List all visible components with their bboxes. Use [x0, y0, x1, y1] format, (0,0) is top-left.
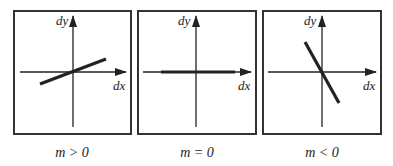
- slope-diagram: dy dx m > 0 dy dx m = 0 dy dx m < 0: [0, 0, 393, 166]
- x-axis-label: dx: [238, 78, 251, 93]
- y-axis-label: dy: [304, 13, 317, 28]
- y-axis-label: dy: [178, 13, 191, 28]
- y-axis-label: dy: [56, 13, 69, 28]
- x-axis-label: dx: [113, 78, 126, 93]
- x-axis-label: dx: [363, 78, 376, 93]
- caption: m > 0: [55, 145, 89, 160]
- caption: m = 0: [180, 145, 214, 160]
- panel-zero-slope: dy dx m = 0: [138, 11, 256, 160]
- panel-positive-slope: dy dx m > 0: [14, 11, 131, 160]
- caption: m < 0: [305, 145, 339, 160]
- panel-negative-slope: dy dx m < 0: [263, 11, 381, 160]
